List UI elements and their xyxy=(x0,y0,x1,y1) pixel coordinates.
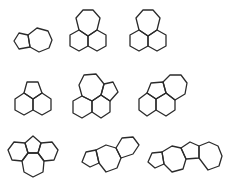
molecule-m4 xyxy=(15,82,51,115)
heptagon-ring xyxy=(76,10,100,36)
heptagon-ring xyxy=(136,10,160,36)
hexagon-ring xyxy=(148,30,166,51)
hexagon-ring xyxy=(92,95,110,118)
heptagon-ring xyxy=(22,153,44,177)
molecule-m3 xyxy=(130,10,166,51)
hexagon-ring xyxy=(130,30,148,51)
hexagon-ring xyxy=(88,30,106,51)
molecule-m6 xyxy=(139,75,187,116)
molecule-m2 xyxy=(70,10,106,51)
molecule-m9 xyxy=(148,142,222,172)
hexagon-ring xyxy=(33,93,51,115)
hexagon-ring xyxy=(8,142,28,161)
pentagon-ring xyxy=(101,82,118,101)
heptagon-ring xyxy=(199,142,222,170)
hexagon-ring xyxy=(116,137,139,158)
molecule-m8 xyxy=(82,137,139,172)
molecule-m5 xyxy=(73,74,118,118)
hexagon-ring xyxy=(70,30,88,51)
hexagon-ring xyxy=(15,93,33,115)
heptagon-ring xyxy=(163,75,187,100)
pentagon-ring xyxy=(181,142,199,159)
molecule-structures-diagram xyxy=(0,0,232,184)
hexagon-ring xyxy=(139,93,156,116)
structures-canvas xyxy=(0,0,232,184)
hexagon-ring xyxy=(156,93,175,116)
molecule-m7 xyxy=(8,136,58,177)
hexagon-ring xyxy=(73,96,92,118)
pentagon-ring xyxy=(148,152,164,168)
heptagon-ring xyxy=(28,28,52,52)
hexagon-ring xyxy=(38,142,58,161)
pentagon-ring xyxy=(24,82,42,99)
molecule-m1 xyxy=(14,28,52,52)
